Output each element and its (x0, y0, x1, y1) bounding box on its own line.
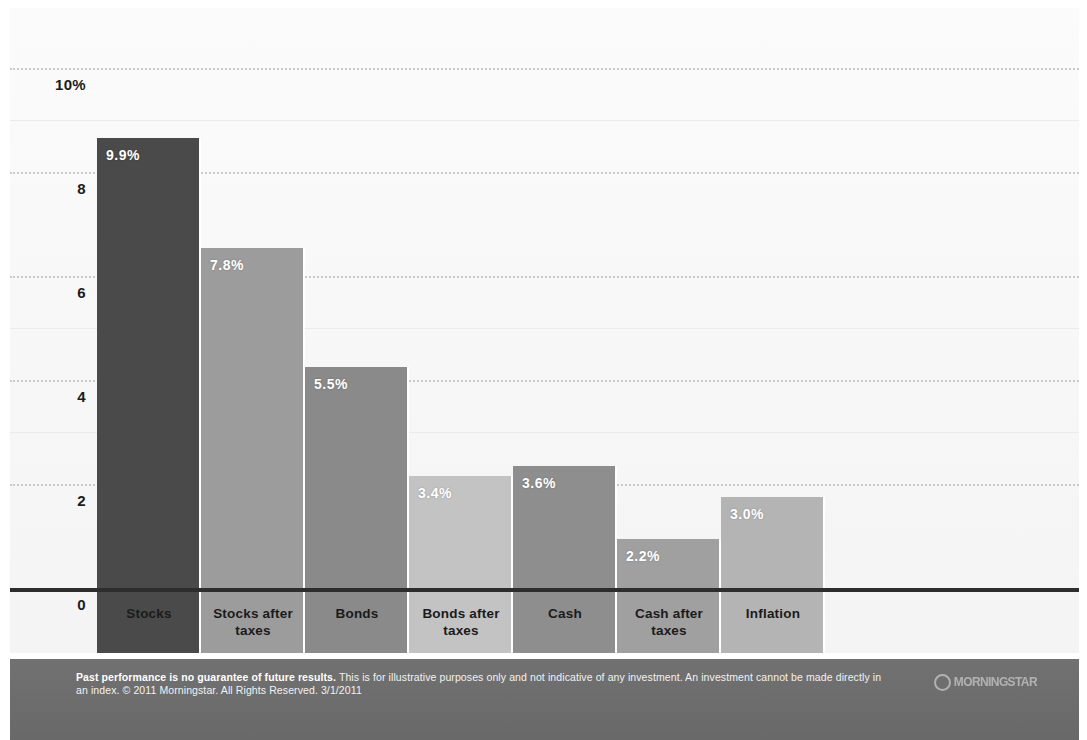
y-tick-label-2: 2 (10, 492, 86, 509)
y-tick-label-0: 0 (10, 596, 86, 613)
chart-page: 0246810% 9.9%7.8%5.5%3.4%3.6%2.2%3.0% St… (0, 0, 1087, 740)
bar-value-label: 9.9% (106, 147, 140, 163)
bar-value-label: 3.4% (418, 485, 452, 501)
footer-disclaimer-bold: Past performance is no guarantee of futu… (76, 671, 336, 683)
x-label-line2: taxes (395, 622, 527, 639)
x-axis-line (10, 588, 1079, 592)
bar-stocks-after-taxes[interactable]: 7.8% (201, 248, 305, 653)
footer-band: Past performance is no guarantee of futu… (10, 659, 1079, 740)
x-label-inflation: Inflation (707, 605, 839, 622)
bar-value-label: 2.2% (626, 548, 660, 564)
morningstar-logo-wordmark: MORNINGSTAR (954, 675, 1037, 689)
bar-value-label: 3.6% (522, 475, 556, 491)
y-tick-label-10pct: 10% (10, 76, 86, 93)
bar-value-label: 7.8% (210, 257, 244, 273)
y-tick-label-6: 6 (10, 284, 86, 301)
x-label-line2: taxes (603, 622, 735, 639)
morningstar-logo-mark-icon (934, 674, 951, 691)
gridline-10 (10, 68, 1079, 70)
chart-plot-area: 0246810% 9.9%7.8%5.5%3.4%3.6%2.2%3.0% St… (10, 8, 1079, 653)
bar-value-label: 5.5% (314, 376, 348, 392)
bar-stocks[interactable]: 9.9% (97, 138, 201, 653)
x-axis-category-labels: StocksStocks aftertaxesBondsBonds aftert… (87, 605, 1079, 653)
y-tick-label-4: 4 (10, 388, 86, 405)
x-label-line2: taxes (187, 622, 319, 639)
x-label-line1: Inflation (707, 605, 839, 622)
y-tick-label-8: 8 (10, 180, 86, 197)
footer-disclaimer: Past performance is no guarantee of futu… (76, 671, 896, 697)
bar-value-label: 3.0% (730, 506, 764, 522)
bar-series: 9.9%7.8%5.5%3.4%3.6%2.2%3.0% (87, 102, 1079, 653)
morningstar-logo: MORNINGSTAR (933, 671, 1037, 693)
